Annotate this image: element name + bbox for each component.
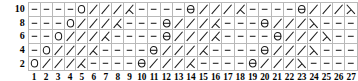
- chart-cell[interactable]: [28, 57, 40, 71]
- chart-cell[interactable]: [271, 3, 283, 17]
- chart-cell[interactable]: [333, 43, 345, 57]
- chart-cell[interactable]: [320, 3, 332, 17]
- chart-cell[interactable]: [333, 30, 345, 44]
- chart-cell[interactable]: [209, 3, 221, 17]
- chart-cell[interactable]: [124, 30, 136, 44]
- chart-cell[interactable]: [88, 16, 100, 30]
- chart-cell[interactable]: [320, 57, 332, 71]
- chart-cell[interactable]: [320, 16, 332, 30]
- chart-cell[interactable]: [308, 43, 320, 57]
- chart-cell[interactable]: [112, 57, 124, 71]
- chart-cell[interactable]: [234, 16, 246, 30]
- chart-cell[interactable]: [222, 30, 234, 44]
- chart-cell[interactable]: [308, 30, 320, 44]
- chart-cell[interactable]: [283, 43, 295, 57]
- chart-cell[interactable]: [185, 43, 197, 57]
- chart-cell[interactable]: [320, 43, 332, 57]
- chart-cell[interactable]: [100, 57, 112, 71]
- chart-cell[interactable]: [345, 43, 358, 57]
- chart-cell[interactable]: [185, 30, 197, 44]
- chart-cell[interactable]: [209, 30, 221, 44]
- chart-cell[interactable]: [197, 3, 209, 17]
- chart-cell[interactable]: [345, 3, 358, 17]
- chart-cell[interactable]: [259, 57, 271, 71]
- chart-cell[interactable]: [296, 16, 308, 30]
- chart-cell[interactable]: [271, 16, 283, 30]
- chart-cell[interactable]: [234, 30, 246, 44]
- chart-cell[interactable]: [246, 57, 258, 71]
- chart-cell[interactable]: [197, 16, 209, 30]
- chart-cell[interactable]: [28, 43, 40, 57]
- chart-cell[interactable]: [197, 43, 209, 57]
- chart-cell[interactable]: [64, 43, 76, 57]
- chart-cell[interactable]: [160, 16, 172, 30]
- chart-cell[interactable]: [136, 3, 148, 17]
- chart-cell[interactable]: [320, 30, 332, 44]
- chart-cell[interactable]: [100, 3, 112, 17]
- chart-cell[interactable]: [88, 43, 100, 57]
- chart-cell[interactable]: [148, 43, 160, 57]
- chart-cell[interactable]: [173, 3, 185, 17]
- chart-cell[interactable]: [185, 16, 197, 30]
- chart-cell[interactable]: [52, 3, 64, 17]
- chart-cell[interactable]: [136, 16, 148, 30]
- chart-cell[interactable]: [222, 43, 234, 57]
- chart-cell[interactable]: [222, 16, 234, 30]
- chart-cell[interactable]: [52, 30, 64, 44]
- chart-cell[interactable]: [76, 30, 88, 44]
- chart-cell[interactable]: [296, 30, 308, 44]
- chart-cell[interactable]: [28, 16, 40, 30]
- chart-cell[interactable]: [173, 43, 185, 57]
- chart-cell[interactable]: [100, 43, 112, 57]
- chart-cell[interactable]: [124, 16, 136, 30]
- chart-cell[interactable]: [345, 16, 358, 30]
- chart-cell[interactable]: [173, 30, 185, 44]
- chart-cell[interactable]: [197, 30, 209, 44]
- chart-cell[interactable]: [40, 30, 52, 44]
- chart-cell[interactable]: [136, 57, 148, 71]
- chart-cell[interactable]: [64, 57, 76, 71]
- chart-cell[interactable]: [88, 3, 100, 17]
- chart-cell[interactable]: [333, 16, 345, 30]
- chart-cell[interactable]: [28, 30, 40, 44]
- chart-cell[interactable]: [222, 57, 234, 71]
- chart-cell[interactable]: [173, 16, 185, 30]
- chart-cell[interactable]: [209, 57, 221, 71]
- chart-cell[interactable]: [283, 3, 295, 17]
- chart-cell[interactable]: [283, 57, 295, 71]
- chart-cell[interactable]: [40, 57, 52, 71]
- chart-cell[interactable]: [88, 30, 100, 44]
- chart-cell[interactable]: [345, 30, 358, 44]
- chart-cell[interactable]: [296, 43, 308, 57]
- chart-cell[interactable]: [296, 57, 308, 71]
- chart-cell[interactable]: [185, 3, 197, 17]
- chart-cell[interactable]: [112, 30, 124, 44]
- chart-cell[interactable]: [209, 16, 221, 30]
- chart-cell[interactable]: [76, 57, 88, 71]
- chart-cell[interactable]: [148, 57, 160, 71]
- chart-cell[interactable]: [271, 30, 283, 44]
- chart-cell[interactable]: [246, 16, 258, 30]
- chart-cell[interactable]: [112, 43, 124, 57]
- chart-cell[interactable]: [333, 57, 345, 71]
- chart-cell[interactable]: [259, 16, 271, 30]
- chart-cell[interactable]: [197, 57, 209, 71]
- chart-cell[interactable]: [345, 57, 358, 71]
- chart-cell[interactable]: [234, 57, 246, 71]
- chart-cell[interactable]: [40, 16, 52, 30]
- chart-cell[interactable]: [148, 30, 160, 44]
- chart-cell[interactable]: [160, 3, 172, 17]
- chart-cell[interactable]: [28, 3, 40, 17]
- chart-cell[interactable]: [209, 43, 221, 57]
- chart-cell[interactable]: [234, 43, 246, 57]
- chart-cell[interactable]: [246, 3, 258, 17]
- chart-cell[interactable]: [185, 57, 197, 71]
- chart-cell[interactable]: [64, 30, 76, 44]
- chart-cell[interactable]: [246, 43, 258, 57]
- chart-cell[interactable]: [64, 3, 76, 17]
- chart-cell[interactable]: [124, 43, 136, 57]
- chart-cell[interactable]: [160, 30, 172, 44]
- chart-cell[interactable]: [100, 16, 112, 30]
- chart-cell[interactable]: [259, 30, 271, 44]
- chart-cell[interactable]: [76, 3, 88, 17]
